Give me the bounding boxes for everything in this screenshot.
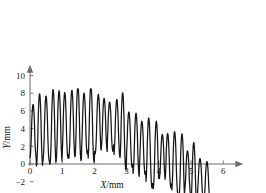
y-tick-label-6: 6 — [21, 106, 26, 116]
x-tick-label-6: 6 — [221, 166, 226, 176]
chart-figure: 0123456 −6−4−20246810 X/mm Y/mm — [0, 0, 266, 193]
profile-line-chart: 0123456 −6−4−20246810 X/mm Y/mm — [0, 0, 266, 193]
x-axis-title: X/mm — [99, 180, 124, 190]
x-tick-label-1: 1 — [60, 166, 65, 176]
x-tick-label-2: 2 — [92, 166, 97, 176]
y-axis-title: Y/mm — [2, 125, 12, 148]
y-tick-label--2: −2 — [15, 177, 25, 187]
y-tick-label-2: 2 — [21, 142, 26, 152]
y-tick-label-10: 10 — [16, 71, 26, 81]
y-tick-label-8: 8 — [21, 88, 26, 98]
x-tick-label-0: 0 — [28, 166, 33, 176]
y-tick-label-0: 0 — [21, 159, 26, 169]
y-tick-label-4: 4 — [21, 124, 26, 134]
